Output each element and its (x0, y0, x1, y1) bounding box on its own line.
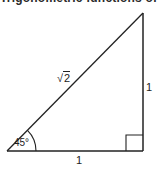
base-label: 1 (76, 155, 82, 166)
hypotenuse-line (7, 13, 143, 151)
vertical-side-label: 1 (146, 82, 152, 93)
sqrt-radicand: 2 (63, 71, 70, 84)
angle-label: 45° (14, 138, 29, 148)
hypotenuse-label: √2 (57, 73, 70, 84)
right-angle-marker (126, 135, 143, 151)
